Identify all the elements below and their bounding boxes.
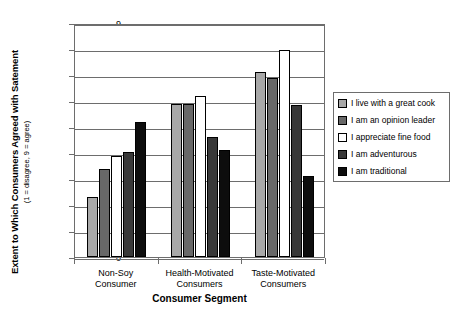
legend-label: I am traditional: [351, 166, 407, 176]
bar: [267, 78, 278, 257]
bar: [135, 122, 146, 257]
bar-group: [75, 25, 159, 257]
plot-area: [74, 24, 325, 258]
bar: [87, 197, 98, 257]
bar: [123, 152, 134, 257]
x-axis-tick-label-line: Consumers: [228, 279, 338, 290]
bar: [183, 104, 194, 257]
bars-layer: [75, 25, 324, 257]
bar: [303, 176, 314, 257]
x-axis-tick-mark: [158, 258, 159, 264]
y-axis-title-main: Extent to Which Consumers Agreed with Sa…: [9, 50, 20, 274]
legend-item[interactable]: I am traditional: [338, 166, 445, 176]
bar-chart: Extent to Which Consumers Agreed with Sa…: [0, 0, 452, 319]
legend-label: I appreciate fine food: [351, 132, 430, 142]
legend-label: I am adventurous: [351, 149, 417, 159]
bar: [195, 96, 206, 257]
bar: [99, 169, 110, 257]
bar: [279, 50, 290, 257]
bar: [291, 105, 302, 257]
x-axis-tick-label: Taste-MotivatedConsumers: [228, 268, 338, 290]
legend-swatch: [338, 99, 347, 108]
legend-item[interactable]: I live with a great cook: [338, 98, 445, 108]
bar: [207, 137, 218, 257]
legend-swatch: [338, 150, 347, 159]
legend: I live with a great cookI am an opinion …: [333, 92, 450, 182]
bar: [219, 150, 230, 257]
x-axis-tick-mark: [241, 258, 242, 264]
legend-swatch: [338, 167, 347, 176]
legend-label: I live with a great cook: [351, 98, 435, 108]
x-axis-tick-mark: [74, 258, 75, 264]
legend-label: I am an opinion leader: [351, 115, 435, 125]
y-axis-title-sub: (1 = disagree, 9 = agree): [22, 121, 31, 204]
bar: [171, 104, 182, 257]
bar-group: [159, 25, 243, 257]
x-axis-tick-label-line: Taste-Motivated: [228, 268, 338, 279]
bar-group: [242, 25, 326, 257]
y-axis-title: Extent to Which Consumers Agreed with Sa…: [0, 24, 40, 260]
legend-swatch: [338, 116, 347, 125]
x-axis-tick-mark: [325, 258, 326, 264]
legend-item[interactable]: I am an opinion leader: [338, 115, 445, 125]
bar: [255, 72, 266, 257]
x-axis-title: Consumer Segment: [74, 293, 325, 304]
legend-item[interactable]: I am adventurous: [338, 149, 445, 159]
gridline: [75, 259, 324, 260]
legend-swatch: [338, 133, 347, 142]
bar: [111, 156, 122, 257]
legend-item[interactable]: I appreciate fine food: [338, 132, 445, 142]
